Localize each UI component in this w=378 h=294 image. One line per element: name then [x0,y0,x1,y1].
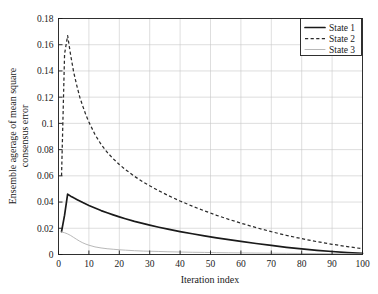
y-tick-label: 0 [49,250,54,260]
x-tick-label: 60 [236,259,246,269]
y-axis-title-line2: consensus error [19,104,30,167]
y-tick-label: 0.1 [42,119,54,129]
x-tick-label: 90 [327,259,337,269]
ensemble-consensus-error-chart: 010203040506070809010000.020.040.060.080… [0,0,378,294]
x-tick-label: 10 [84,259,94,269]
x-tick-label: 0 [56,259,61,269]
legend[interactable]: State 1 State 2 State 3 [301,19,362,56]
legend-label-state-1[interactable]: State 1 [329,23,355,33]
y-tick-label: 0.08 [37,145,54,155]
y-tick-label: 0.18 [37,14,54,24]
x-tick-label: 100 [355,259,370,269]
legend-label-state-2[interactable]: State 2 [329,34,355,44]
y-tick-label: 0.04 [37,197,54,207]
chart-screenshot: 010203040506070809010000.020.040.060.080… [0,0,378,294]
legend-label-state-3[interactable]: State 3 [329,45,355,55]
x-tick-label: 50 [206,259,216,269]
y-tick-label: 0.02 [37,224,54,234]
x-tick-label: 70 [267,259,277,269]
x-tick-label: 80 [297,259,307,269]
x-tick-label: 20 [115,259,125,269]
y-tick-label: 0.12 [37,93,54,103]
y-tick-label: 0.16 [37,40,54,50]
x-tick-label: 40 [175,259,185,269]
y-tick-label: 0.06 [37,171,54,181]
x-axis-title: Iteration index [181,274,240,285]
y-tick-label: 0.14 [37,66,54,76]
x-tick-label: 30 [145,259,155,269]
y-axis-title-line1: Ensemble agerage of mean square [7,67,18,204]
